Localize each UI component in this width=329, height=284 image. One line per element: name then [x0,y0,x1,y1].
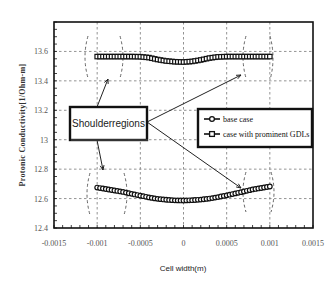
callout-arrow [97,140,103,170]
y-tick-label: 13.2 [34,106,48,115]
x-axis-title: Cell width(m) [160,264,207,273]
bracket-dashed [87,173,90,215]
y-tick-label: 12.8 [34,165,48,174]
x-tick-label: -0.0005 [128,239,153,248]
data-point [268,54,272,58]
x-tick-label: -0.0015 [42,239,67,248]
callout-arrow [97,79,108,107]
y-tick-label: 13.4 [34,77,48,86]
callout-label: Shoulderregions [72,118,145,129]
y-axis-title: Protonic Conductivity[1/Ohm-m] [18,64,27,187]
x-tick-label: -0.001 [87,239,108,248]
x-tick-label: 0.0005 [216,239,238,248]
bracket-dashed [85,36,88,78]
y-tick-label: 12.6 [34,195,48,204]
y-tick-label: 13 [40,136,48,145]
y-tick-label: 12.4 [34,224,48,233]
x-tick-label: 0.001 [261,239,279,248]
legend: base case case with prominent GDLs [198,109,312,147]
series-case-with-prominent-gdls [95,54,272,64]
x-tick-label: 0.0015 [302,239,324,248]
shoulder-regions-callout: Shoulderregions [70,107,148,141]
legend-label-prominent-gdls: case with prominent GDLs [223,130,309,139]
legend-box [198,109,312,147]
data-point [268,184,273,189]
x-tick-label: 0 [182,239,186,248]
y-tick-label: 13.6 [34,47,48,56]
circle-marker-icon [210,117,215,122]
bracket-dashed [271,172,274,212]
line-chart: -0.0015-0.001-0.000500.00050.0010.001512… [0,0,329,284]
callout-box-shadow [71,139,148,141]
square-marker-icon [210,132,215,137]
legend-label-base-case: base case [223,115,253,124]
